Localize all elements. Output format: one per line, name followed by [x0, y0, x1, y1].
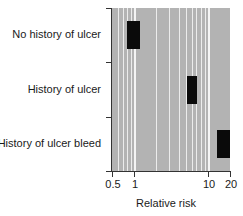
x-tick — [134, 171, 135, 177]
x-tick — [112, 171, 113, 177]
x-tick-label: 20 — [225, 178, 237, 190]
gridline — [205, 8, 206, 171]
gridline — [118, 8, 119, 171]
x-tick-label: 10 — [203, 178, 215, 190]
x-axis-line — [111, 171, 231, 172]
risk-range-bar — [127, 21, 140, 49]
x-tick — [230, 171, 231, 177]
gridline — [156, 8, 157, 171]
x-tick-label: 1 — [132, 178, 138, 190]
y-category-label: History of ulcer bleed — [0, 137, 101, 149]
gridline — [201, 8, 202, 171]
x-tick-label: 0.5 — [105, 178, 120, 190]
risk-range-bar — [217, 130, 230, 158]
y-tick — [106, 62, 112, 63]
y-tick — [106, 8, 112, 9]
y-tick — [106, 117, 112, 118]
gridline — [179, 8, 180, 171]
gridline — [123, 8, 124, 171]
gridline — [208, 8, 210, 171]
risk-range-bar — [187, 76, 197, 104]
gridline — [169, 8, 170, 171]
y-category-label: No history of ulcer — [12, 28, 101, 40]
y-axis-line — [111, 8, 112, 172]
x-axis-title: Relative risk — [136, 197, 196, 209]
x-tick — [208, 171, 209, 177]
y-category-label: History of ulcer — [28, 83, 101, 95]
